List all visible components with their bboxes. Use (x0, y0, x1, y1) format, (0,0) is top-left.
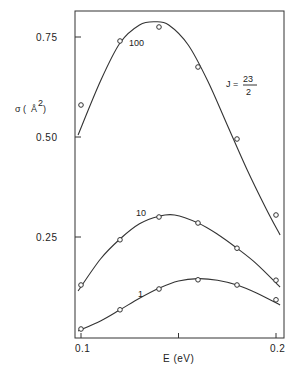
cross-section-chart: 0.250.500.75 0.10.2 100 10 1 J = 23 2 σ … (0, 0, 301, 377)
data-point (235, 246, 240, 251)
x-axis-ticks: 0.10.2 (75, 333, 285, 354)
data-point (235, 283, 240, 288)
data-point (118, 238, 123, 243)
y-tick-label: 0.75 (36, 32, 57, 43)
plot-frame (75, 11, 284, 338)
data-point (79, 103, 84, 108)
data-point (118, 308, 123, 313)
data-point (79, 327, 84, 332)
svg-text:σ (: σ ( (15, 104, 26, 114)
x-tick-label: 0.1 (75, 343, 90, 354)
data-point (235, 137, 240, 142)
curve-100 (78, 22, 280, 235)
x-tick-label: 0.2 (270, 343, 285, 354)
data-point (118, 39, 123, 44)
data-point-markers (79, 25, 279, 332)
y-tick-label: 0.50 (36, 132, 57, 143)
x-axis-label: E (eV) (163, 353, 194, 364)
svg-text:J =: J = (226, 79, 238, 89)
j-annotation: J = 23 2 (226, 74, 257, 97)
data-point (274, 298, 279, 303)
svg-text:Å: Å (31, 104, 37, 114)
y-axis-ticks: 0.250.500.75 (36, 32, 81, 243)
svg-text:2: 2 (246, 87, 251, 97)
data-point (157, 215, 162, 220)
curve-label-10: 10 (136, 208, 146, 218)
svg-text:): ) (43, 104, 46, 114)
data-point (196, 221, 201, 226)
data-point (196, 65, 201, 70)
data-point (196, 278, 201, 283)
y-axis-label: σ ( Å 2 ) (15, 98, 46, 114)
curve-label-100: 100 (129, 38, 144, 48)
curve-1 (78, 279, 280, 331)
curve-label-1: 1 (138, 289, 143, 299)
data-point (274, 278, 279, 283)
curve-10 (78, 214, 280, 291)
data-point (274, 213, 279, 218)
data-point (157, 287, 162, 292)
curves (78, 22, 280, 331)
y-tick-label: 0.25 (36, 232, 57, 243)
data-point (157, 25, 162, 30)
data-point (79, 283, 84, 288)
svg-text:23: 23 (243, 74, 253, 84)
